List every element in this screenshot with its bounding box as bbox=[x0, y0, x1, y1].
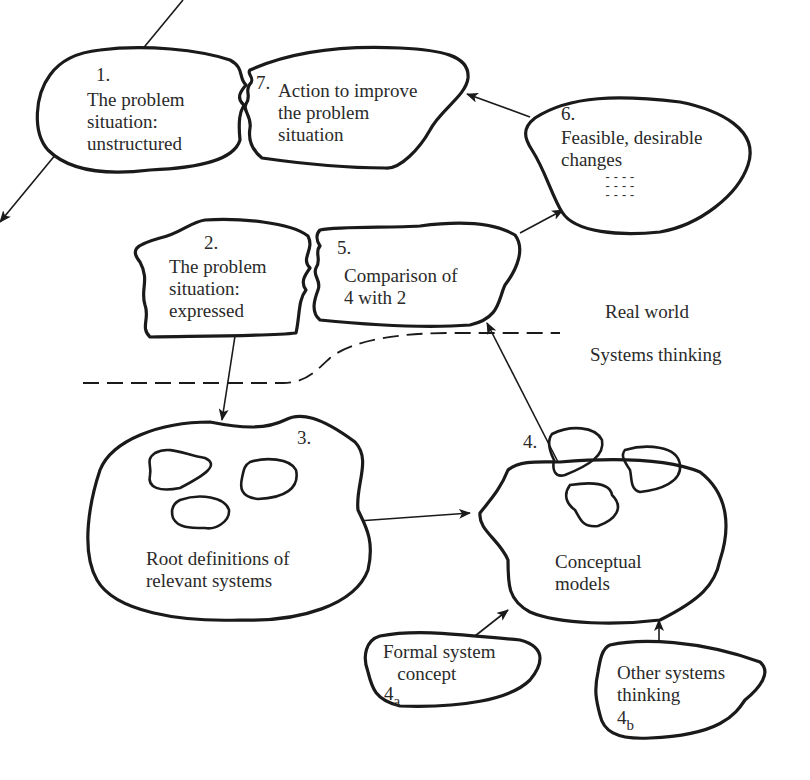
arrow-5-to-6 bbox=[520, 210, 563, 233]
stage-4a-subscript: a bbox=[394, 693, 401, 709]
boundary-line bbox=[83, 333, 560, 383]
stage-4-label: Conceptual models bbox=[555, 551, 642, 595]
stage-4b-number-main: 4 bbox=[617, 707, 627, 728]
stage-1-label: The problem situation: unstructured bbox=[87, 89, 185, 155]
stage-2-number: 2. bbox=[204, 232, 218, 254]
stage-6-label: Feasible, desirable changes bbox=[561, 127, 702, 171]
stage-5-number: 5. bbox=[337, 237, 351, 259]
stage-4a-number-main: 4 bbox=[384, 683, 394, 704]
stage-2-label: The problem situation: expressed bbox=[169, 256, 267, 322]
stage-1-number: 1. bbox=[96, 64, 110, 86]
stage-4b-number: 4b bbox=[617, 707, 634, 729]
stage-6-number: 6. bbox=[561, 103, 575, 125]
arrow-4a-to-4 bbox=[475, 610, 508, 636]
stage-4a-number: 4a bbox=[384, 683, 400, 705]
stage-4a-label: Formal system concept bbox=[383, 641, 495, 685]
stage-3-number: 3. bbox=[297, 427, 311, 449]
stage-6-list-marks: ---- ---- ---- bbox=[604, 174, 637, 201]
stage-7-number: 7. bbox=[256, 72, 270, 94]
arrow-2-to-3 bbox=[222, 336, 235, 420]
arrow-3-to-4 bbox=[358, 513, 470, 521]
stage-4b-label: Other systems thinking bbox=[617, 662, 725, 706]
arrow-6-to-7 bbox=[467, 94, 530, 117]
real-world-label: Real world bbox=[605, 301, 689, 323]
stage-5-label: Comparison of 4 with 2 bbox=[344, 265, 457, 309]
stage-3-label: Root definitions of relevant systems bbox=[146, 548, 290, 592]
stage-7-label: Action to improve the problem situation bbox=[278, 80, 417, 146]
stage-4b-subscript: b bbox=[627, 717, 635, 733]
stage-4-number: 4. bbox=[523, 431, 537, 453]
systems-thinking-label: Systems thinking bbox=[590, 344, 721, 366]
